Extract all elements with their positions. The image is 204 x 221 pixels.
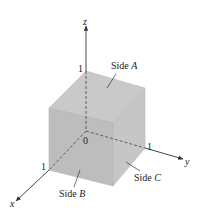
- z-axis-label: z: [82, 16, 87, 27]
- y-tick-1: 1: [147, 141, 152, 152]
- y-axis-label: y: [184, 156, 190, 167]
- z-tick-1: 1: [78, 63, 83, 74]
- x-tick-1: 1: [41, 161, 46, 172]
- unit-cube-diagram: z y x 1 1 1 0 Side A Side B Side C: [0, 0, 204, 221]
- x-axis-label: x: [9, 198, 15, 209]
- x-axis: [16, 170, 49, 201]
- side-c-label: Side C: [134, 172, 161, 183]
- origin-label: 0: [83, 135, 88, 146]
- side-b-label: Side B: [59, 188, 85, 199]
- side-a-label: Side A: [111, 60, 138, 71]
